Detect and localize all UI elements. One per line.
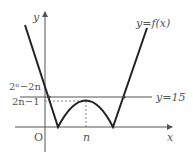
origin-label: O — [34, 131, 43, 144]
line-label: y=15 — [155, 91, 185, 104]
x-tick-label-n: n — [83, 131, 90, 144]
x-axis-label: x — [167, 131, 174, 144]
intersection-point-right — [122, 95, 125, 98]
function-graph: y y=f(x) y=15 2ⁿ−2n 2n−1 O n x — [0, 0, 193, 160]
function-curve — [25, 25, 147, 127]
y-label-lower: 2n−1 — [12, 96, 40, 107]
curve-label: y=f(x) — [135, 17, 170, 30]
y-label-upper: 2ⁿ−2n — [9, 81, 41, 92]
intersection-point-left — [47, 95, 50, 98]
y-axis-label: y — [32, 11, 40, 24]
